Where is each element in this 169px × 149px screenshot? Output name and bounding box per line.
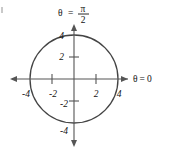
y-tick-label-neg-4: -4 — [60, 126, 68, 136]
x-axis-left-arrow-icon — [10, 76, 17, 82]
x-tick-label-neg-2: -2 — [49, 89, 57, 99]
x-axis-label-theta-symbol: θ — [133, 74, 138, 84]
y-tick-label-pos-2: 2 — [59, 52, 64, 62]
edge-artifact-mark — [1, 7, 3, 13]
y-tick-label-pos-4: 4 — [59, 31, 64, 41]
y-axis-label-two-denominator: 2 — [81, 15, 86, 25]
x-tick-label-pos-4: 4 — [117, 89, 122, 99]
y-axis-up-arrow-icon — [71, 24, 77, 31]
x-axis-right-arrow-icon — [121, 76, 128, 82]
x-axis-label-zero: 0 — [147, 74, 152, 84]
x-tick-label-neg-4: -4 — [22, 89, 30, 99]
x-tick-label-pos-2: 2 — [94, 89, 99, 99]
polar-plot-canvas: -4 -2 2 4 4 2 -2 -4 θ=0 θ = π 2 — [0, 0, 169, 149]
polar-graph-figure: -4 -2 2 4 4 2 -2 -4 θ=0 θ = π 2 — [0, 0, 169, 149]
y-axis-label-equals: = — [68, 8, 73, 18]
y-tick-label-neg-2: -2 — [60, 99, 68, 109]
x-axis-label-theta-equals-zero: θ=0 — [133, 74, 152, 84]
x-axis-label-equals: = — [140, 74, 145, 84]
y-axis-label-theta-symbol: θ — [58, 8, 63, 18]
y-axis-down-arrow-icon — [71, 140, 77, 147]
y-axis-label-pi-numerator: π — [81, 4, 86, 14]
